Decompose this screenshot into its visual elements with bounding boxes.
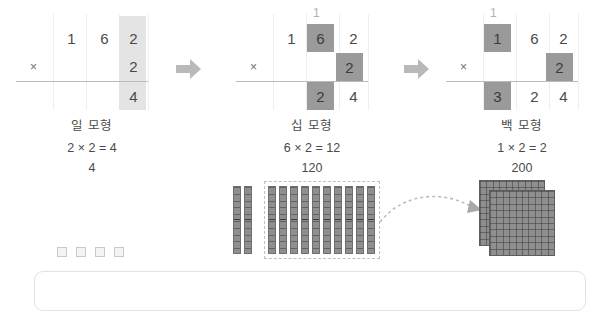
step-panel-tens: 1 1 6 2 × 2 2 4 십 모형 6 × 2 = 12 120 (228, 0, 396, 112)
cell-r1-hundreds: 1 (278, 24, 305, 52)
column-divider-hundreds (53, 14, 54, 110)
cell-r1-tens: 6 (307, 24, 334, 52)
cell-r2-hundreds-blank (484, 53, 511, 81)
grouped-tens-rods-group (268, 186, 375, 254)
caption-tens: 십 모형 6 × 2 = 12 120 (228, 115, 396, 175)
tens-rod (233, 186, 241, 254)
caption-value-tens: 120 (228, 161, 396, 175)
tens-rod (279, 186, 287, 254)
step-arrow-2-icon (404, 58, 430, 80)
caption-value-ones: 4 (8, 161, 176, 175)
cell-r1-hundreds: 1 (484, 24, 511, 52)
multiplication-operator: × (250, 60, 257, 74)
bottom-panel-frame (34, 271, 586, 311)
tens-rod (268, 186, 276, 254)
multiplication-operator: × (30, 60, 37, 74)
carry-digit-tens: 1 (313, 6, 320, 20)
tens-rod (244, 186, 252, 254)
caption-equation-hundreds: 1 × 2 = 2 (438, 141, 603, 155)
hundreds-flat-front (489, 190, 555, 256)
cell-r3-hundreds: 3 (484, 82, 511, 110)
caption-title-tens: 십 모형 (228, 115, 396, 134)
column-divider-right (148, 14, 149, 110)
column-divider-tens (86, 14, 87, 110)
caption-equation-tens: 6 × 2 = 12 (228, 141, 396, 155)
regroup-arrow-icon (378, 188, 488, 232)
column-divider-right (368, 14, 369, 110)
long-multiplication-grid-hundreds: 1 1 6 2 × 2 3 2 4 (438, 0, 603, 112)
cell-r3-ones: 4 (550, 82, 577, 110)
loose-tens-rods-group (233, 186, 252, 254)
caption-title-ones: 일 모형 (8, 115, 176, 134)
unit-cube (114, 247, 124, 257)
cell-r3-tens: 2 (307, 82, 334, 110)
tens-rod (290, 186, 298, 254)
unit-cubes-group (57, 247, 124, 257)
unit-cube (76, 247, 86, 257)
cell-r2-tens-blank (307, 53, 334, 81)
step-arrow-1-icon (176, 58, 202, 80)
tens-rod (367, 186, 375, 254)
carry-digit-hundreds: 1 (490, 6, 497, 20)
tens-rod (345, 186, 353, 254)
unit-cube (57, 247, 67, 257)
cell-r2-ones: 2 (336, 53, 363, 81)
caption-title-hundreds: 백 모형 (438, 115, 603, 134)
cell-r1-tens: 6 (91, 24, 118, 52)
cell-r1-ones: 2 (550, 24, 577, 52)
tens-rod (356, 186, 364, 254)
multiplication-operator: × (460, 60, 467, 74)
column-divider-hundreds (273, 14, 274, 110)
step-panel-ones: 1 6 2 × 2 4 일 모형 2 × 2 = 4 4 (8, 0, 176, 112)
tens-rod (334, 186, 342, 254)
cell-r3-tens: 2 (521, 82, 548, 110)
cell-r2-ones: 2 (546, 53, 573, 81)
caption-hundreds: 백 모형 1 × 2 = 2 200 (438, 115, 603, 175)
cell-r1-ones: 2 (120, 24, 147, 52)
tens-rod (323, 186, 331, 254)
cell-r1-tens: 6 (521, 24, 548, 52)
tens-rod (312, 186, 320, 254)
caption-ones: 일 모형 2 × 2 = 4 4 (8, 115, 176, 175)
unit-cube (95, 247, 105, 257)
cell-r3-ones: 4 (340, 82, 367, 110)
cell-r2-ones: 2 (120, 52, 147, 80)
long-multiplication-grid-ones: 1 6 2 × 2 4 (8, 0, 176, 112)
cell-r3-ones: 4 (120, 82, 147, 110)
caption-equation-ones: 2 × 2 = 4 (8, 141, 176, 155)
step-panel-hundreds: 1 1 6 2 × 2 3 2 4 백 모형 1 × 2 = 2 200 (438, 0, 603, 112)
long-multiplication-grid-tens: 1 1 6 2 × 2 2 4 (228, 0, 396, 112)
cell-r1-hundreds: 1 (58, 24, 85, 52)
column-divider-tens (516, 14, 517, 110)
caption-value-hundreds: 200 (438, 161, 603, 175)
column-divider-right (578, 14, 579, 110)
cell-r1-ones: 2 (340, 24, 367, 52)
tens-rod (301, 186, 309, 254)
